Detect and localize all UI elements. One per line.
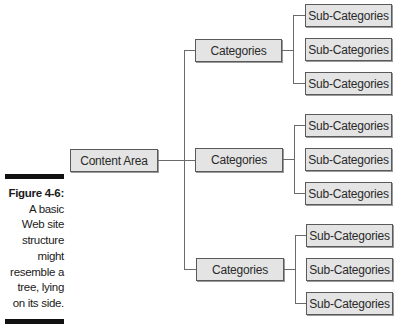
node-label: Sub-Categories [309,263,390,277]
subcategory-node-1-2: Sub-Categories [305,38,392,61]
connector-sub-1-3 [293,83,305,84]
subcategory-node-1-1: Sub-Categories [305,4,392,27]
connector-to-category-2 [184,160,195,161]
node-label: Sub-Categories [308,119,389,133]
subcategory-node-1-3: Sub-Categories [305,72,392,95]
root-node-content-area: Content Area [70,149,158,172]
connector-category-3-horizontal [284,269,295,270]
caption-bottom-rule [5,319,64,324]
connector-to-category-3 [184,269,196,270]
node-label: Sub-Categories [308,43,389,57]
category-node-1: Categories [195,39,282,62]
subcategory-node-2-3: Sub-Categories [305,182,392,205]
connector-category-1-vertical [293,15,294,84]
caption-line: resemble a [4,265,64,281]
node-label: Categories [211,153,267,167]
node-label: Categories [212,263,268,277]
node-label: Sub-Categories [309,229,390,243]
caption-line: A basic [4,202,64,218]
connector-sub-2-3 [294,193,305,194]
connector-category-3-vertical [295,235,296,304]
connector-category-2-vertical [294,125,295,194]
connector-category-2-horizontal [283,159,294,160]
subcategory-node-2-2: Sub-Categories [305,148,392,171]
caption-line: might [4,249,64,265]
node-label: Content Area [80,154,148,168]
connector-sub-1-1 [293,15,305,16]
connector-sub-3-1 [295,235,306,236]
caption-line: tree, lying [4,280,64,296]
subcategory-node-3-2: Sub-Categories [306,258,393,281]
node-label: Sub-Categories [309,297,390,311]
connector-sub-2-1 [294,125,305,126]
caption-line: structure [4,233,64,249]
figure-caption: Figure 4-6: A basic Web site structure m… [4,174,64,324]
caption-text: Figure 4-6: A basic Web site structure m… [4,179,64,319]
caption-line: Web site [4,217,64,233]
subcategory-node-3-3: Sub-Categories [306,292,393,315]
category-node-3: Categories [196,258,284,281]
subcategory-node-3-1: Sub-Categories [306,224,393,247]
subcategory-node-2-1: Sub-Categories [305,114,392,137]
site-structure-diagram: Figure 4-6: A basic Web site structure m… [0,0,414,334]
figure-label: Figure 4-6: [4,186,64,202]
node-label: Sub-Categories [308,77,389,91]
category-node-2: Categories [195,148,283,172]
connector-sub-3-3 [295,303,306,304]
node-label: Sub-Categories [308,9,389,23]
node-label: Sub-Categories [308,153,389,167]
connector-root-horizontal [158,160,185,161]
node-label: Categories [210,44,266,58]
connector-to-category-1 [184,50,195,51]
node-label: Sub-Categories [308,187,389,201]
caption-line: on its side. [4,296,64,312]
